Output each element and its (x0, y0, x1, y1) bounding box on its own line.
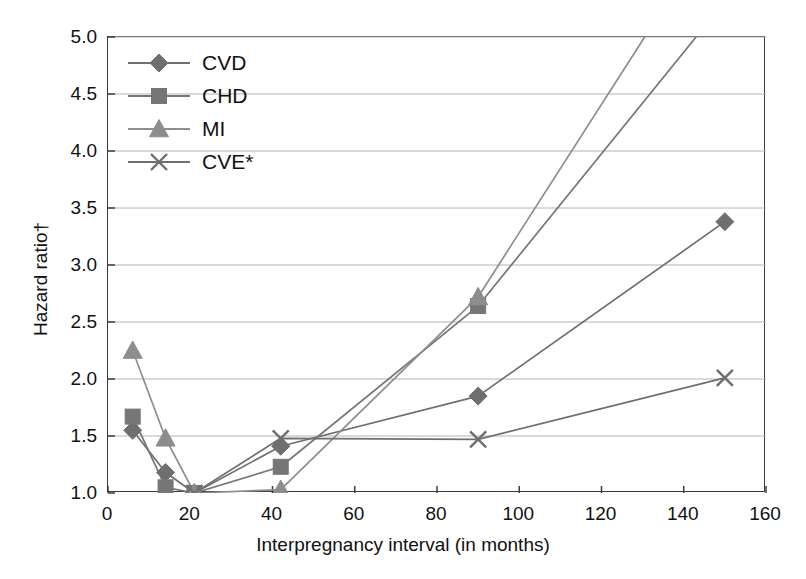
legend-key-svg (128, 119, 190, 139)
x-tick-160: 160 (735, 504, 795, 523)
datapoint-cve-3 (717, 370, 733, 386)
datapoint-mi-0 (123, 341, 142, 358)
legend-item-mi: MI (128, 112, 253, 145)
x-tick-100: 100 (488, 504, 548, 523)
datapoint-cvd-4-glyph (469, 387, 487, 405)
legend-item-chd: CHD (128, 79, 253, 112)
datapoint-chd-1 (158, 480, 173, 495)
datapoint-cvd-4 (469, 387, 487, 405)
legend-key-svg (128, 152, 190, 172)
x-tick-120: 120 (571, 504, 631, 523)
legend-key-cross-icon (128, 152, 190, 172)
y-tick-2.5: 2.5 (51, 312, 97, 331)
legend-key-square-icon (128, 86, 190, 106)
legend-key-svg (128, 86, 190, 106)
datapoint-chd-3 (273, 459, 288, 474)
legend-key-diamond-icon (128, 53, 190, 73)
x-tick-60: 60 (324, 504, 384, 523)
legend-label: CVD (202, 52, 246, 73)
y-axis-label: Hazard ratio† (30, 222, 52, 336)
legend-key-svg (128, 53, 190, 73)
y-tick-4.0: 4.0 (51, 141, 97, 160)
x-tick-80: 80 (406, 504, 466, 523)
chart-legend: CVDCHDMICVE* (128, 46, 253, 178)
legend-label: CVE* (202, 151, 253, 172)
series-cve (194, 378, 725, 493)
x-tick-20: 20 (159, 504, 219, 523)
y-tick-1.5: 1.5 (51, 426, 97, 445)
datapoint-cvd-5-glyph (716, 213, 734, 231)
datapoint-cvd-1 (157, 463, 175, 481)
legend-key-marker-glyph (150, 54, 168, 72)
legend-label: CHD (202, 85, 248, 106)
series-line-0 (133, 222, 725, 493)
datapoint-mi-4 (469, 287, 488, 304)
y-tick-1.0: 1.0 (51, 483, 97, 502)
series-cvd (133, 222, 725, 493)
datapoint-cvd-5 (716, 213, 734, 231)
datapoint-chd-1-glyph (158, 480, 173, 495)
datapoint-chd-3-glyph (273, 459, 288, 474)
y-tick-3.5: 3.5 (51, 198, 97, 217)
datapoint-cvd-1-glyph (157, 463, 175, 481)
datapoint-chd-0-glyph (125, 409, 140, 424)
datapoint-mi-4-glyph (469, 287, 488, 304)
datapoint-mi-1 (156, 429, 175, 446)
series-markers-3 (186, 370, 733, 501)
legend-key-marker (150, 54, 168, 72)
legend-item-cvd: CVD (128, 46, 253, 79)
y-tick-4.5: 4.5 (51, 84, 97, 103)
y-tick-3.0: 3.0 (51, 255, 97, 274)
legend-label: MI (202, 118, 225, 139)
series-markers-1 (125, 299, 485, 501)
series-markers-2 (123, 287, 487, 500)
legend-item-cve: CVE* (128, 145, 253, 178)
series-markers-0 (124, 213, 734, 502)
chart-figure: Hazard ratio† 1.01.52.02.53.03.54.04.55.… (0, 0, 806, 579)
legend-key-triangle-icon (128, 119, 190, 139)
x-tick-0: 0 (77, 504, 137, 523)
legend-key-marker-glyph (152, 88, 167, 103)
x-axis-label: Interpregnancy interval (in months) (0, 534, 806, 556)
x-tick-40: 40 (242, 504, 302, 523)
series-line-3 (194, 378, 725, 493)
y-tick-5.0: 5.0 (51, 27, 97, 46)
datapoint-chd-0 (125, 409, 140, 424)
y-tick-2.0: 2.0 (51, 369, 97, 388)
legend-key-marker (152, 88, 167, 103)
x-tick-140: 140 (653, 504, 713, 523)
datapoint-mi-0-glyph (123, 341, 142, 358)
datapoint-mi-1-glyph (156, 429, 175, 446)
